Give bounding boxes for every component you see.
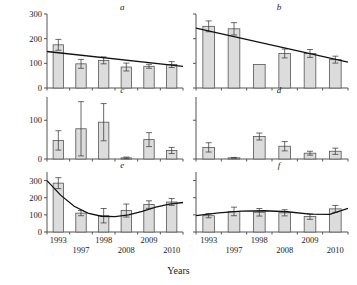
x-tick-label: 2008 (118, 245, 135, 255)
x-tick-label: 1993 (200, 235, 217, 245)
trend-line (47, 181, 183, 217)
x-tick-label: 2010 (327, 245, 344, 255)
panel-e-plot: 0100200300199319971998200820092010 (23, 160, 189, 258)
panel-e: 0100200300199319971998200820092010e (23, 160, 189, 258)
trend-line (196, 28, 348, 62)
y-tick-label: 200 (29, 34, 42, 44)
x-tick-label: 1998 (95, 235, 112, 245)
panel-f-plot: 199319971998200820092010 (172, 160, 354, 258)
y-axis-label: Chl+Pheo, µg/g dry matter (0, 0, 13, 28)
y-tick-label: 300 (29, 176, 42, 186)
bar (330, 60, 342, 88)
x-tick-label: 1997 (226, 245, 243, 255)
bar (279, 53, 291, 88)
bar (304, 53, 316, 88)
x-tick-label: 2008 (276, 245, 293, 255)
bar (53, 45, 63, 88)
x-tick-label: 2009 (141, 235, 158, 245)
y-tick-label: 300 (29, 9, 42, 19)
trend-line (196, 208, 348, 215)
x-tick-label: 1993 (50, 235, 67, 245)
x-axis-label: Years (0, 265, 357, 276)
chart-figure: Chl+Pheo, µg/g dry matter 0100200300a b … (0, 0, 357, 285)
panel-e-title: e (112, 160, 132, 170)
bar (98, 60, 108, 88)
error-bar (231, 157, 237, 158)
panel-a-title: a (112, 2, 132, 12)
x-tick-label: 2009 (302, 235, 319, 245)
bar (53, 183, 63, 232)
panel-b-title: b (269, 2, 289, 12)
y-tick-label: 0 (38, 227, 42, 237)
panel-f: 199319971998200820092010f (172, 160, 354, 258)
x-tick-label: 1998 (251, 235, 268, 245)
y-tick-label: 200 (29, 193, 42, 203)
x-tick-label: 1997 (73, 245, 90, 255)
trend-line (47, 51, 183, 66)
panel-c-title: c (112, 85, 132, 95)
y-tick-label: 100 (29, 210, 42, 220)
y-tick-label: 100 (29, 115, 42, 125)
bar (203, 26, 215, 88)
panel-d-title: d (269, 85, 289, 95)
y-tick-label: 100 (29, 58, 42, 68)
panel-f-title: f (269, 160, 289, 170)
